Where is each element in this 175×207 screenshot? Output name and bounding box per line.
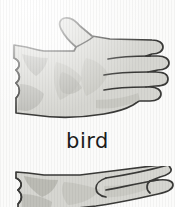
flashcard-page: bird (0, 0, 175, 207)
caption-text: bird (0, 128, 175, 154)
hand-illustration-top (0, 14, 175, 122)
hand-bottom-group (16, 166, 173, 207)
hand-illustration-bottom (0, 166, 175, 207)
hand-top-group (14, 18, 169, 117)
hand-top-cuff (14, 58, 19, 98)
